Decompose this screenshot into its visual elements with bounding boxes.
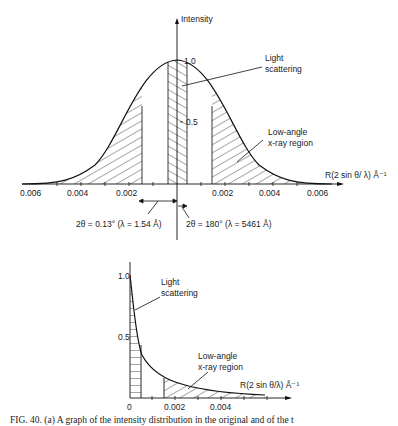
y-axis-label: Intensity bbox=[181, 14, 213, 24]
bottom-xray-label-1: Low-angle bbox=[198, 351, 237, 361]
y-axis-arrow-icon bbox=[175, 18, 179, 24]
x-tick-label: 0.004 bbox=[67, 188, 89, 198]
bottom-x-tick-label: 0 bbox=[127, 402, 132, 412]
x-tick-label: 0.004 bbox=[259, 188, 281, 198]
x-axis-label: R(2 sin θ/ λ) Å⁻¹ bbox=[325, 170, 387, 180]
bottom-light-label-2: scattering bbox=[161, 288, 198, 298]
bottom-x-axis-arrow-icon bbox=[285, 396, 292, 400]
x-tick-label: 0.006 bbox=[20, 188, 42, 198]
bottom-chart: 1.0 0.5 Light scattering Low-angle x-ray… bbox=[118, 262, 299, 412]
x-axis-arrow-icon bbox=[337, 182, 344, 186]
xray-label-1: Low-angle bbox=[268, 127, 307, 137]
annotation-xray-angle: 2θ = 0.13° (λ = 1.54 Å) bbox=[76, 219, 162, 229]
bottom-x-tick-label: 0.004 bbox=[210, 402, 232, 412]
bottom-xray-label-2: x-ray region bbox=[198, 362, 243, 372]
top-chart: Intensity 1.0 0.5 Light scattering Low-a… bbox=[20, 14, 387, 240]
x-tick-label: 0.002 bbox=[116, 188, 138, 198]
light-scattering-label-1: Light bbox=[265, 53, 284, 63]
bottom-light-label-1: Light bbox=[161, 277, 180, 287]
light-scattering-label-2: scattering bbox=[265, 64, 302, 74]
bottom-x-axis-label: R(2 sin θ/λ) Å⁻¹ bbox=[240, 380, 299, 390]
x-tick-label: 0.002 bbox=[212, 188, 234, 198]
annotation-light-angle: 2θ = 180° (λ = 5461 Å) bbox=[186, 219, 272, 229]
figure-caption: FIG. 40. (a) A graph of the intensity di… bbox=[10, 415, 294, 426]
light-leader bbox=[182, 67, 262, 86]
bottom-y-tick-05: 0.5 bbox=[118, 332, 130, 342]
figure: Intensity 1.0 0.5 Light scattering Low-a… bbox=[0, 0, 398, 426]
x-tick-label: 0.006 bbox=[307, 188, 329, 198]
y-tick-1: 1.0 bbox=[184, 56, 196, 66]
bottom-shading bbox=[130, 270, 274, 398]
bottom-y-tick-1: 1.0 bbox=[118, 271, 130, 281]
xray-label-2: x-ray region bbox=[268, 138, 313, 148]
range-arrows bbox=[139, 199, 189, 218]
bottom-x-tick-label: 0.002 bbox=[164, 402, 186, 412]
y-tick-05: 0.5 bbox=[186, 117, 198, 127]
